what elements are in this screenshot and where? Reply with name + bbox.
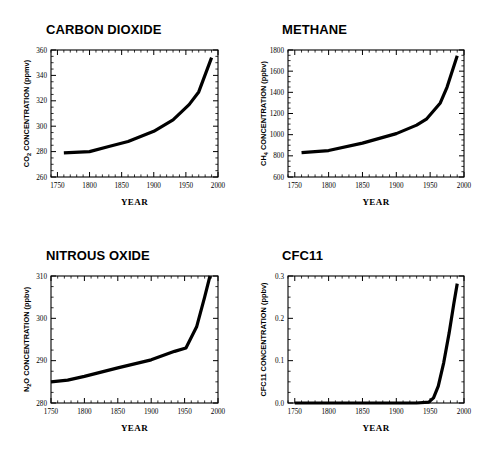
x-tick-label: 1800 bbox=[321, 408, 336, 416]
x-tick-label: 1750 bbox=[44, 408, 59, 416]
x-tick-label: 1950 bbox=[423, 408, 438, 416]
panel-carbon-dioxide: CARBON DIOXIDE 1750180018501900195020002… bbox=[0, 0, 246, 226]
y-tick-label: 0.1 bbox=[275, 357, 284, 365]
y-tick-label: 300 bbox=[36, 315, 47, 323]
y-tick-label: 320 bbox=[36, 97, 47, 105]
y-axis-title: CO2 CONCENTRATION (ppmv) bbox=[22, 59, 32, 167]
x-tick-label: 1900 bbox=[144, 408, 159, 416]
y-tick-label: 1400 bbox=[270, 89, 285, 97]
y-tick-label: 280 bbox=[36, 148, 47, 156]
plot-carbon-dioxide: 1750180018501900195020002602803003203403… bbox=[0, 0, 246, 226]
y-axis-title: CFC11 CONCENTRATION (ppbv) bbox=[259, 282, 268, 397]
x-tick-label: 1750 bbox=[288, 408, 303, 416]
y-tick-label: 280 bbox=[36, 400, 47, 408]
x-tick-label: 1900 bbox=[389, 182, 404, 190]
panel-nitrous-oxide: NITROUS OXIDE 17501800185019001950200028… bbox=[0, 226, 246, 453]
y-tick-label: 1200 bbox=[270, 110, 285, 118]
data-curve bbox=[302, 56, 458, 153]
plot-cfc11: 1750180018501900195020000.00.10.20.3YEAR… bbox=[246, 226, 493, 453]
y-tick-label: 290 bbox=[36, 357, 47, 365]
x-tick-label: 1850 bbox=[355, 408, 370, 416]
x-axis-title: YEAR bbox=[362, 197, 389, 207]
y-axis-title: CH4 CONCENTRATION (ppbv) bbox=[259, 61, 269, 166]
x-tick-label: 1850 bbox=[111, 408, 126, 416]
x-tick-label: 2000 bbox=[211, 182, 226, 190]
panel-methane: METHANE 17501800185019001950200060080010… bbox=[246, 0, 493, 226]
data-curve bbox=[64, 58, 212, 153]
x-tick-label: 1800 bbox=[321, 182, 336, 190]
plot-methane: 1750180018501900195020006008001000120014… bbox=[246, 0, 493, 226]
x-tick-label: 1850 bbox=[355, 182, 370, 190]
plot-frame bbox=[51, 276, 218, 403]
panel-cfc11: CFC11 1750180018501900195020000.00.10.20… bbox=[246, 226, 493, 453]
y-tick-label: 800 bbox=[273, 152, 284, 160]
x-tick-label: 2000 bbox=[457, 408, 472, 416]
y-tick-label: 300 bbox=[36, 123, 47, 131]
y-tick-label: 1600 bbox=[270, 68, 285, 76]
x-tick-label: 1900 bbox=[389, 408, 404, 416]
plot-frame bbox=[288, 50, 464, 177]
x-tick-label: 2000 bbox=[457, 182, 472, 190]
y-tick-label: 1000 bbox=[270, 131, 285, 139]
y-tick-label: 1800 bbox=[270, 47, 285, 55]
x-tick-label: 2000 bbox=[211, 408, 226, 416]
x-tick-label: 1750 bbox=[288, 182, 303, 190]
plot-frame bbox=[51, 50, 218, 177]
y-tick-label: 310 bbox=[36, 273, 47, 281]
x-tick-label: 1950 bbox=[423, 182, 438, 190]
y-tick-label: 260 bbox=[36, 174, 47, 182]
x-tick-label: 1900 bbox=[147, 182, 162, 190]
x-tick-label: 1950 bbox=[177, 408, 192, 416]
x-tick-label: 1800 bbox=[77, 408, 92, 416]
x-axis-title: YEAR bbox=[121, 423, 148, 433]
y-tick-label: 340 bbox=[36, 72, 47, 80]
data-curve bbox=[295, 284, 457, 403]
y-tick-label: 0.2 bbox=[275, 315, 284, 323]
x-tick-label: 1750 bbox=[50, 182, 65, 190]
x-tick-label: 1850 bbox=[114, 182, 129, 190]
plot-nitrous-oxide: 175018001850190019502000280290300310YEAR… bbox=[0, 226, 246, 453]
y-axis-title: N2O CONCENTRATION (ppbv) bbox=[22, 286, 32, 392]
y-tick-label: 0.3 bbox=[275, 273, 284, 281]
y-tick-label: 600 bbox=[273, 174, 284, 182]
data-curve bbox=[51, 276, 210, 382]
x-axis-title: YEAR bbox=[362, 423, 389, 433]
y-tick-label: 0.0 bbox=[275, 400, 284, 408]
x-tick-label: 1800 bbox=[82, 182, 97, 190]
figure-grid: CARBON DIOXIDE 1750180018501900195020002… bbox=[0, 0, 493, 453]
y-tick-label: 360 bbox=[36, 47, 47, 55]
x-axis-title: YEAR bbox=[121, 197, 148, 207]
x-tick-label: 1950 bbox=[179, 182, 194, 190]
